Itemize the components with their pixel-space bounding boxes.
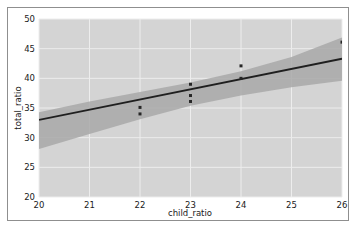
y-tick-label: 25 — [24, 162, 35, 172]
data-point — [240, 77, 243, 80]
y-axis-title: total_ratio — [13, 86, 23, 129]
y-tick-label: 50 — [24, 14, 35, 24]
x-tick-label: 25 — [286, 200, 297, 210]
x-tick-label: 21 — [84, 200, 95, 210]
x-axis-title: child_ratio — [168, 208, 212, 218]
y-tick-label: 35 — [24, 103, 35, 113]
data-point — [341, 41, 344, 44]
y-tick-label: 45 — [24, 44, 35, 54]
x-tick-label: 26 — [337, 200, 348, 210]
x-tick-label: 24 — [236, 200, 247, 210]
x-tick-label: 20 — [34, 200, 45, 210]
data-point — [189, 94, 192, 97]
y-tick-label: 30 — [24, 133, 35, 143]
figure-root: 20253035404550 20212223242526 child_rati… — [0, 0, 356, 235]
figure-frame: 20253035404550 20212223242526 child_rati… — [7, 7, 349, 221]
data-point — [189, 100, 192, 103]
regression-scatter-plot: 20253035404550 20212223242526 child_rati… — [8, 8, 348, 220]
data-point — [139, 112, 142, 115]
data-point — [139, 106, 142, 109]
x-tick-label: 22 — [135, 200, 146, 210]
data-point — [240, 64, 243, 67]
y-tick-label: 40 — [24, 73, 35, 83]
y-axis-tick-labels: 20253035404550 — [24, 14, 35, 202]
data-point — [189, 83, 192, 86]
